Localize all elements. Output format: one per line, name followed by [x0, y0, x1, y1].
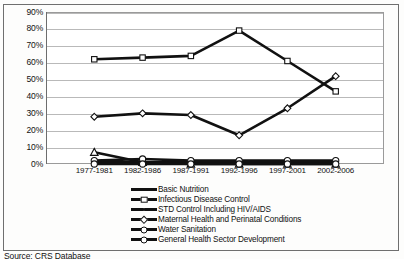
data-point-marker [236, 28, 241, 33]
y-tick-label: 30% [1, 109, 43, 118]
data-point-marker [139, 110, 146, 117]
series-line [94, 76, 335, 135]
series-line [94, 159, 335, 161]
legend-label: Infectious Disease Control [158, 195, 250, 204]
legend-item[interactable]: General Health Sector Development [131, 235, 301, 245]
y-tick-label: 50% [1, 75, 43, 84]
y-axis-labels: 0%10%20%30%40%50%60%70%80%90% [0, 12, 43, 164]
legend-label: General Health Sector Development [158, 235, 285, 244]
chart-figure: 0%10%20%30%40%50%60%70%80%90% 1977-19811… [0, 0, 404, 259]
legend-marker-icon [131, 185, 157, 194]
series-line [94, 31, 335, 92]
data-point-marker [140, 55, 145, 60]
legend-label: STD Control Including HIV/AIDS [158, 205, 271, 214]
legend-label: Basic Nutrition [158, 185, 209, 194]
y-tick-label: 80% [1, 24, 43, 33]
y-tick-label: 70% [1, 41, 43, 50]
y-tick-label: 40% [1, 92, 43, 101]
legend-label: Maternal Health and Perinatal Conditions [158, 215, 301, 224]
plot-wrapper [46, 12, 384, 164]
y-tick-label: 10% [1, 143, 43, 152]
legend-marker-icon [131, 215, 157, 224]
legend-marker-icon [131, 205, 157, 214]
legend-item[interactable]: Water Sanitation [131, 225, 301, 235]
legend-item[interactable]: Maternal Health and Perinatal Conditions [131, 215, 301, 225]
series-layer [46, 12, 384, 164]
legend-marker-icon [131, 235, 157, 244]
x-axis-labels: 1977-19811982-19861987-19911992-19961997… [46, 166, 384, 180]
chart-legend: Basic NutritionInfectious Disease Contro… [131, 185, 301, 245]
legend-label: Water Sanitation [158, 225, 216, 234]
x-tick-label: 2002-2006 [302, 166, 370, 175]
y-tick-label: 90% [1, 8, 43, 17]
legend-item[interactable]: Basic Nutrition [131, 185, 301, 195]
legend-item[interactable]: Infectious Disease Control [131, 195, 301, 205]
data-point-marker [188, 53, 193, 58]
data-point-marker [91, 113, 98, 120]
source-caption: Source: CRS Database [4, 252, 90, 259]
data-point-marker [333, 89, 338, 94]
legend-marker-icon [131, 195, 157, 204]
y-tick-label: 60% [1, 58, 43, 67]
series-group [92, 28, 339, 94]
data-point-marker [92, 57, 97, 62]
y-tick-label: 20% [1, 126, 43, 135]
series-group [91, 73, 339, 139]
legend-item[interactable]: STD Control Including HIV/AIDS [131, 205, 301, 215]
data-point-marker [285, 58, 290, 63]
legend-marker-icon [131, 225, 157, 234]
y-tick-label: 0% [1, 160, 43, 169]
